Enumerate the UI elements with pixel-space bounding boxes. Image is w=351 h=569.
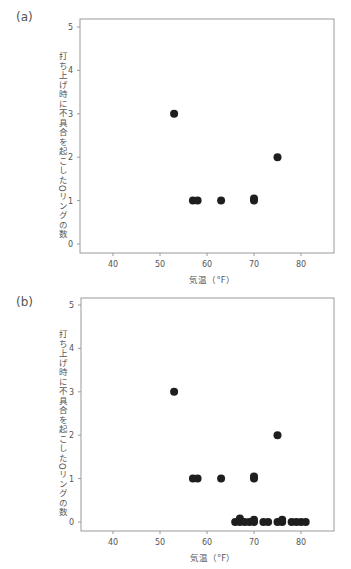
- data-point: [170, 110, 178, 118]
- y-tick-label: 4: [69, 344, 74, 353]
- x-tick-label: 60: [202, 260, 212, 269]
- y-tick-label: 1: [68, 197, 73, 206]
- data-point: [194, 475, 202, 483]
- x-tick-label: 80: [296, 538, 306, 547]
- data-point: [250, 472, 258, 480]
- chart-panel-b: (b) 打ち上げ時に不具合を起こしたOリングの数 012345405060708…: [0, 285, 351, 569]
- data-point: [194, 197, 202, 205]
- x-tick-label: 50: [155, 260, 165, 269]
- data-point: [250, 194, 258, 202]
- x-tick-label: 40: [108, 538, 118, 547]
- y-tick-label: 0: [68, 240, 73, 249]
- scatter-plot-b: 0123454050607080気温（°F）: [0, 285, 351, 569]
- x-tick-label: 70: [249, 538, 259, 547]
- data-point: [217, 475, 225, 483]
- data-point: [217, 197, 225, 205]
- data-point: [302, 518, 310, 526]
- plot-frame: [80, 19, 334, 253]
- y-tick-label: 3: [69, 388, 74, 397]
- x-tick-label: 40: [108, 260, 118, 269]
- y-tick-label: 0: [69, 518, 74, 527]
- y-tick-label: 2: [68, 153, 73, 162]
- plot-frame: [81, 298, 334, 531]
- scatter-plot-a: 0123454050607080気温（°F）: [0, 0, 351, 284]
- x-tick-label: 60: [202, 538, 212, 547]
- x-tick-label: 80: [296, 260, 306, 269]
- data-point: [274, 431, 282, 439]
- y-tick-label: 5: [69, 301, 74, 310]
- x-axis-title: 気温（°F）: [189, 275, 234, 284]
- y-tick-label: 5: [68, 23, 73, 32]
- chart-panel-a: (a) 打ち上げ時に不具合を起こしたOリングの数 012345405060708…: [0, 0, 351, 284]
- y-tick-label: 3: [68, 110, 73, 119]
- y-tick-label: 4: [68, 66, 73, 75]
- y-tick-label: 1: [69, 475, 74, 484]
- x-tick-label: 50: [155, 538, 165, 547]
- data-point: [170, 388, 178, 396]
- x-axis-title: 気温（°F）: [190, 553, 235, 563]
- data-point: [250, 516, 258, 524]
- data-point: [264, 518, 272, 526]
- data-point: [274, 153, 282, 161]
- x-tick-label: 70: [249, 260, 259, 269]
- y-tick-label: 2: [69, 431, 74, 440]
- data-point: [278, 516, 286, 524]
